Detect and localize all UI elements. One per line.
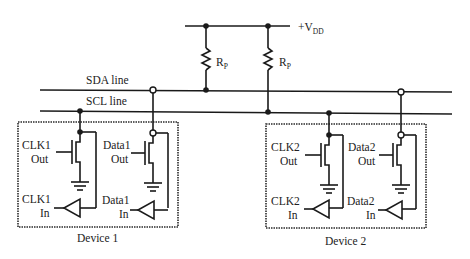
- junction-dot: [326, 110, 332, 116]
- data1-out-label-2: Out: [111, 153, 129, 165]
- clk1-in-label-2: In: [40, 207, 50, 219]
- device-1-label: Device 1: [77, 232, 118, 244]
- clk1-in-label: CLK1: [22, 193, 51, 205]
- clk1-out-label-2: Out: [31, 153, 49, 165]
- open-junction: [398, 89, 404, 95]
- pullup-resistor-sda: RP: [202, 26, 228, 90]
- scl-line: SCL line: [40, 95, 452, 115]
- sda-line: SDA line: [40, 74, 452, 93]
- clk2-out-label-2: Out: [280, 155, 298, 167]
- open-junction: [150, 130, 156, 136]
- data2-in-label-2: In: [366, 209, 376, 221]
- junction-dot: [77, 108, 83, 114]
- clk2-in-label: CLK2: [271, 195, 300, 207]
- data2-out-label-2: Out: [358, 155, 376, 167]
- data1-in-label: Data1: [102, 194, 130, 206]
- rp-label: RP: [216, 56, 228, 71]
- data2-in-label: Data2: [347, 195, 375, 207]
- device-2-label: Device 2: [325, 235, 366, 247]
- clk2-out-label: CLK2: [271, 141, 300, 153]
- data1-in-label-2: In: [119, 208, 129, 220]
- sda-label: SDA line: [86, 74, 129, 86]
- pullup-resistor-scl: RP: [264, 26, 291, 111]
- rp-label: RP: [279, 56, 291, 71]
- scl-label: SCL line: [86, 95, 127, 107]
- open-junction: [398, 132, 404, 138]
- data1-out-label: Data1: [103, 139, 131, 151]
- junction-dot: [265, 109, 271, 115]
- clk1-out-label: CLK1: [22, 139, 51, 151]
- open-junction: [150, 87, 156, 93]
- vdd-label: +VDD: [298, 21, 324, 36]
- junction-dot: [203, 87, 209, 93]
- data2-out-label: Data2: [348, 141, 376, 153]
- clk2-in-label-2: In: [288, 209, 298, 221]
- i2c-diagram: +VDD RP RP SDA line SCL line: [0, 0, 470, 259]
